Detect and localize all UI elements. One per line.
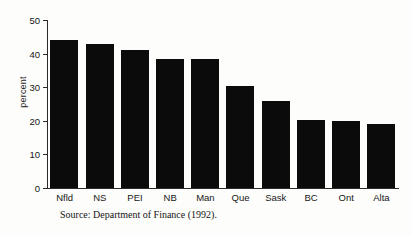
bar-group: Alta — [364, 20, 399, 188]
bar-chart-figure: percent 01020304050 NfldNSPEINBManQueSas… — [0, 0, 412, 236]
bar — [191, 59, 219, 188]
bar — [226, 86, 254, 188]
x-tick-label: Nfld — [47, 192, 82, 203]
y-tick-mark — [43, 188, 48, 189]
x-tick-label: BC — [293, 192, 328, 203]
x-tick-label: Alta — [364, 192, 399, 203]
bar — [121, 50, 149, 188]
y-axis-title: percent — [18, 62, 28, 122]
y-tick-label: 50 — [29, 15, 40, 26]
x-tick-label: NS — [82, 192, 117, 203]
y-tick-label: 20 — [29, 115, 40, 126]
x-tick-label: NB — [153, 192, 188, 203]
bar — [297, 120, 325, 188]
y-tick-label: 40 — [29, 48, 40, 59]
x-tick-label: PEI — [117, 192, 152, 203]
bar — [156, 59, 184, 188]
x-tick-label: Man — [188, 192, 223, 203]
bar-group: BC — [293, 20, 328, 188]
bar-group: PEI — [117, 20, 152, 188]
plot-area: 01020304050 NfldNSPEINBManQueSaskBCOntAl… — [47, 20, 399, 188]
bar-group: NB — [153, 20, 188, 188]
bar — [332, 121, 360, 188]
bar — [50, 40, 78, 188]
x-tick-label: Que — [223, 192, 258, 203]
bar-group: NS — [82, 20, 117, 188]
source-note: Source: Department of Finance (1992). — [60, 209, 217, 220]
y-tick-label: 0 — [35, 183, 40, 194]
bar — [262, 101, 290, 188]
bar — [367, 124, 395, 188]
bar-group: Ont — [329, 20, 364, 188]
x-axis-line — [47, 188, 399, 189]
bar-group: Nfld — [47, 20, 82, 188]
y-tick-label: 30 — [29, 82, 40, 93]
bar-series: NfldNSPEINBManQueSaskBCOntAlta — [47, 20, 399, 188]
y-tick-label: 10 — [29, 149, 40, 160]
bar-group: Man — [188, 20, 223, 188]
bar — [86, 44, 114, 188]
x-tick-label: Sask — [258, 192, 293, 203]
x-tick-label: Ont — [329, 192, 364, 203]
bar-group: Sask — [258, 20, 293, 188]
bar-group: Que — [223, 20, 258, 188]
